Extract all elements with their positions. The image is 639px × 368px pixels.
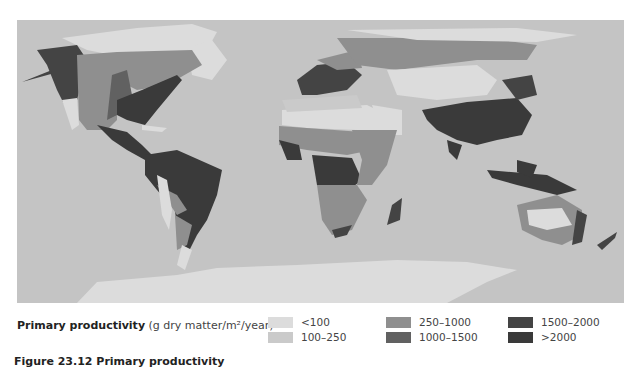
legend-title: Primary productivity (g dry matter/m²/ye… bbox=[17, 319, 274, 332]
legend-label: 1500–2000 bbox=[541, 316, 600, 328]
legend-item-250-1000: 250–1000 bbox=[386, 316, 471, 328]
legend-swatch bbox=[508, 317, 533, 328]
figure-caption: Figure 23.12 Primary productivity bbox=[14, 355, 224, 368]
region-antarctica bbox=[77, 260, 517, 303]
legend-item-lt100: <100 bbox=[268, 316, 330, 328]
legend-swatch bbox=[386, 317, 411, 328]
legend-swatch bbox=[386, 332, 411, 343]
region-siberia bbox=[337, 38, 537, 70]
world-map bbox=[17, 20, 624, 303]
legend-label: >2000 bbox=[541, 331, 577, 343]
legend-label: <100 bbox=[301, 316, 330, 328]
legend-item-1000-1500: 1000–1500 bbox=[386, 331, 478, 343]
legend-item-gt2000: >2000 bbox=[508, 331, 577, 343]
legend-swatch bbox=[508, 332, 533, 343]
legend-title-unit: (g dry matter/m²/year) bbox=[149, 319, 274, 332]
legend-swatch bbox=[268, 332, 293, 343]
legend-label: 100–250 bbox=[301, 331, 346, 343]
legend-swatch bbox=[268, 317, 293, 328]
legend-label: 1000–1500 bbox=[419, 331, 478, 343]
region-south-asia bbox=[422, 98, 532, 145]
legend-title-bold: Primary productivity bbox=[17, 319, 145, 332]
legend-item-1500-2000: 1500–2000 bbox=[508, 316, 600, 328]
map-graphic bbox=[17, 20, 624, 303]
legend-label: 250–1000 bbox=[419, 316, 471, 328]
legend-item-100-250: 100–250 bbox=[268, 331, 346, 343]
region-west-coast bbox=[62, 98, 79, 130]
